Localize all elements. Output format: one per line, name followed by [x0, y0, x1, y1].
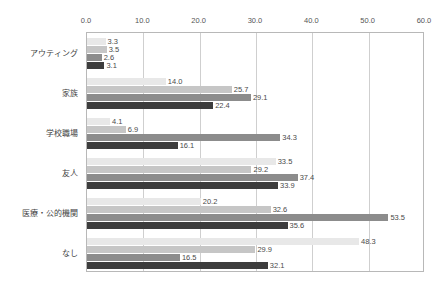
bar-value-label: 48.3	[359, 237, 376, 246]
bar-row: 3.1	[87, 62, 425, 69]
bar	[87, 78, 166, 85]
bar	[87, 46, 107, 53]
bar-row: 16.1	[87, 142, 425, 149]
gridline	[256, 33, 257, 271]
bar-row: 16.5	[87, 254, 425, 261]
bar-row: 48.3	[87, 238, 425, 245]
bar	[87, 246, 255, 253]
bar	[87, 182, 278, 189]
bar-value-label: 35.6	[288, 221, 305, 230]
bar-value-label: 32.6	[271, 205, 288, 214]
bar	[87, 102, 213, 109]
bar-value-label: 3.1	[104, 61, 116, 70]
bar-row: 3.3	[87, 38, 425, 45]
bar-value-label: 32.1	[268, 261, 285, 270]
bar-row: 35.6	[87, 222, 425, 229]
x-tick-label: 10.0	[135, 16, 150, 25]
x-tick-label: 30.0	[248, 16, 263, 25]
bar	[87, 142, 178, 149]
bar-row: 29.2	[87, 166, 425, 173]
category-label: 学校職場	[46, 127, 78, 138]
x-tick-label: 20.0	[191, 16, 206, 25]
bar-value-label: 14.0	[166, 77, 183, 86]
bar-row: 4.1	[87, 118, 425, 125]
bar-row: 37.4	[87, 174, 425, 181]
bar-value-label: 16.1	[178, 141, 195, 150]
bar-value-label: 29.1	[251, 93, 268, 102]
bar-row: 53.5	[87, 214, 425, 221]
bar-row: 29.9	[87, 246, 425, 253]
bar	[87, 198, 201, 205]
x-tick-label: 0.0	[81, 16, 91, 25]
bar-row: 14.0	[87, 78, 425, 85]
bar	[87, 222, 288, 229]
bar-row: 33.5	[87, 158, 425, 165]
bar-row: 22.4	[87, 102, 425, 109]
gridline	[312, 33, 313, 271]
gridline	[200, 33, 201, 271]
bar	[87, 238, 359, 245]
bar-row: 3.5	[87, 46, 425, 53]
bar-value-label: 20.2	[201, 197, 218, 206]
bar-value-label: 25.7	[232, 85, 249, 94]
bar	[87, 158, 276, 165]
category-label: なし	[62, 247, 78, 258]
bar-value-label: 16.5	[180, 253, 197, 262]
bar-value-label: 29.2	[251, 165, 268, 174]
bar-row: 20.2	[87, 198, 425, 205]
bar	[87, 174, 298, 181]
bar	[87, 166, 251, 173]
bar-value-label: 22.4	[213, 101, 230, 110]
category-label: 友人	[62, 167, 78, 178]
x-tick-label: 40.0	[304, 16, 319, 25]
bar-row: 32.1	[87, 262, 425, 269]
bar	[87, 38, 106, 45]
bar-row: 33.9	[87, 182, 425, 189]
bar	[87, 118, 110, 125]
gridline	[369, 33, 370, 271]
bar	[87, 262, 268, 269]
bar	[87, 206, 271, 213]
bar-row: 25.7	[87, 86, 425, 93]
bar-row: 6.9	[87, 126, 425, 133]
bar	[87, 94, 251, 101]
plot-area: 3.33.52.63.114.025.729.122.44.16.934.316…	[86, 32, 424, 272]
bar	[87, 86, 232, 93]
bar-value-label: 29.9	[255, 245, 272, 254]
bar-value-label: 34.3	[280, 133, 297, 142]
bar-chart: 0.010.020.030.040.050.060.0 アウティング家族学校職場…	[0, 0, 448, 288]
x-tick-label: 50.0	[360, 16, 375, 25]
bar-value-label: 37.4	[298, 173, 315, 182]
category-label: アウティング	[30, 47, 78, 58]
bar-row: 32.6	[87, 206, 425, 213]
category-label: 家族	[62, 87, 78, 98]
bar-value-label: 4.1	[110, 117, 122, 126]
bar	[87, 134, 280, 141]
x-tick-label: 60.0	[417, 16, 432, 25]
bar-row: 2.6	[87, 54, 425, 61]
gridline	[143, 33, 144, 271]
bar	[87, 126, 126, 133]
bar	[87, 62, 104, 69]
bar-row: 29.1	[87, 94, 425, 101]
bar	[87, 214, 388, 221]
bar	[87, 254, 180, 261]
bar	[87, 54, 102, 61]
bar-value-label: 6.9	[126, 125, 138, 134]
bar-value-label: 53.5	[388, 213, 405, 222]
category-label: 医療・公的機関	[22, 207, 78, 218]
category-axis-labels: アウティング家族学校職場友人医療・公的機関なし	[0, 32, 82, 272]
bar-value-label: 33.5	[276, 157, 293, 166]
bar-row: 34.3	[87, 134, 425, 141]
bar-value-label: 33.9	[278, 181, 295, 190]
